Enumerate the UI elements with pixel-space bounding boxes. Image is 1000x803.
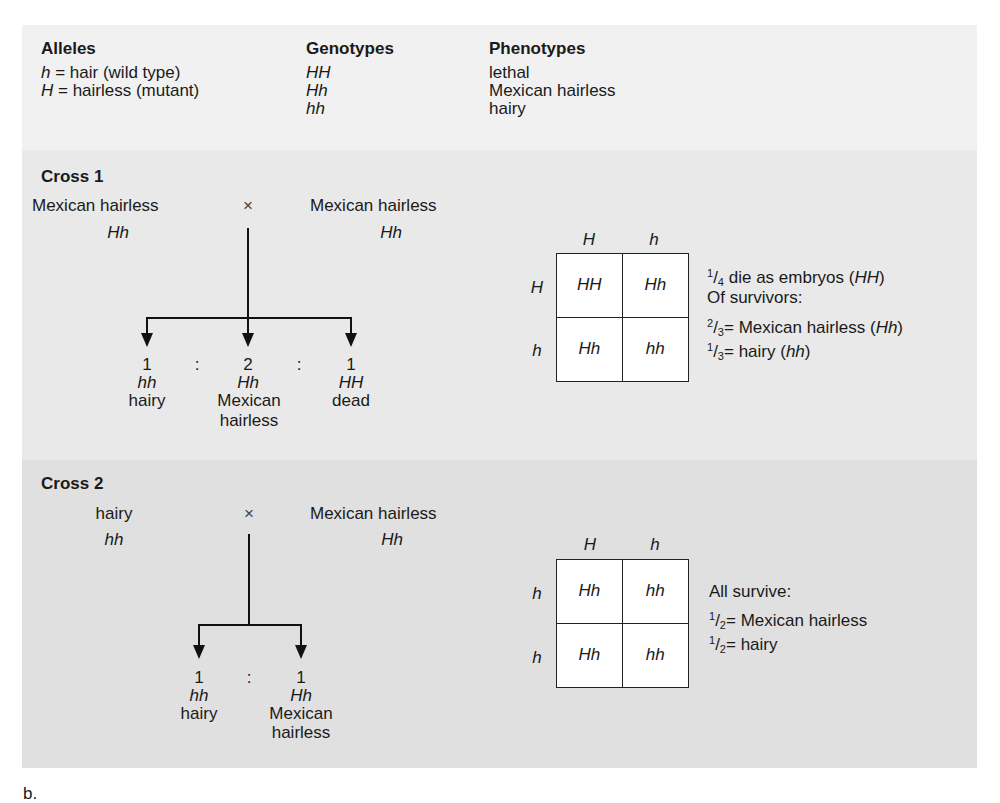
cross1-parent1-phenotype: Mexican hairless	[32, 196, 159, 216]
arrow-down-icon	[242, 333, 254, 347]
offspring-ratio: 1	[142, 355, 151, 375]
offspring-phenotype: dead	[332, 391, 370, 411]
arrow-down-icon	[295, 645, 307, 659]
allele-H: H = hairless (mutant)	[41, 81, 199, 101]
ratio-separator: :	[297, 355, 302, 375]
punnett-col-header: H	[583, 230, 595, 250]
punnett-cell: HH	[557, 254, 623, 318]
phenotypes-heading: Phenotypes	[489, 39, 585, 59]
ratio-separator: :	[195, 355, 200, 375]
genotype-item: Hh	[306, 81, 328, 101]
fraction-num: 2	[707, 317, 713, 329]
punnett-col-header: h	[649, 230, 658, 250]
allele-desc: = hairless (mutant)	[53, 81, 199, 100]
offspring-ratio: 1	[346, 355, 355, 375]
note-text: = Mexican hairless	[726, 611, 867, 630]
branch-stem	[248, 534, 250, 626]
punnett-cell: hh	[623, 624, 689, 688]
offspring-ratio: 1	[296, 668, 305, 688]
note-text: = Mexican hairless (	[724, 318, 876, 337]
punnett-cell: Hh	[557, 624, 623, 688]
punnett-square: Hh hh Hh hh	[556, 559, 689, 688]
cross1-note-survivors: Of survivors:	[707, 288, 802, 308]
offspring-phenotype-line2: hairless	[220, 411, 279, 431]
punnett-square: HH Hh Hh hh	[556, 253, 689, 382]
punnett-cell: Hh	[623, 254, 689, 318]
note-end: )	[897, 318, 903, 337]
branch-drop	[198, 624, 200, 646]
punnett-col-header: H	[584, 535, 596, 555]
fraction-den: 4	[718, 276, 724, 288]
cross2-title: Cross 2	[41, 474, 103, 494]
cross1-parent1-genotype: Hh	[107, 223, 129, 243]
offspring-genotype: hh	[138, 373, 157, 393]
note-genotype: hh	[786, 342, 805, 361]
punnett-row-header: h	[532, 341, 541, 361]
branch-bar	[198, 624, 302, 626]
arrow-down-icon	[345, 333, 357, 347]
cross-symbol: ×	[244, 504, 254, 524]
offspring-genotype: HH	[339, 373, 364, 393]
allele-symbol: H	[41, 81, 53, 100]
offspring-phenotype: hairy	[181, 704, 218, 724]
arrow-down-icon	[193, 645, 205, 659]
offspring-ratio: 1	[194, 668, 203, 688]
fraction-num: 1	[709, 610, 715, 622]
branch-drop	[300, 624, 302, 646]
punnett-cell: hh	[623, 318, 689, 382]
alleles-heading: Alleles	[41, 39, 96, 59]
note-text: die as embryos (	[729, 268, 855, 287]
cross2-parent1-genotype: hh	[105, 530, 124, 550]
genotype-item: HH	[306, 63, 331, 83]
phenotype-item: hairy	[489, 99, 526, 119]
cross2-note-survive: All survive:	[709, 582, 791, 602]
cross-symbol: ×	[243, 196, 253, 216]
punnett-row-header: h	[532, 648, 541, 668]
offspring-phenotype-line2: hairless	[272, 723, 331, 743]
note-genotype: HH	[854, 268, 879, 287]
cross1-parent2-phenotype: Mexican hairless	[310, 196, 437, 216]
note-end: )	[879, 268, 885, 287]
offspring-genotype: hh	[190, 686, 209, 706]
phenotype-item: lethal	[489, 63, 530, 83]
note-genotype: Hh	[876, 318, 898, 337]
note-end: )	[805, 342, 811, 361]
note-text: = hairy	[726, 635, 778, 654]
cross1-parent2-genotype: Hh	[380, 223, 402, 243]
punnett-cell: Hh	[557, 560, 623, 624]
figure-label: b.	[23, 784, 37, 803]
punnett-row-header: h	[532, 584, 541, 604]
cross1-title: Cross 1	[41, 167, 103, 187]
genotype-item: hh	[306, 99, 325, 119]
fraction-num: 1	[709, 634, 715, 646]
punnett-row-header: H	[531, 278, 543, 298]
note-text: = hairy (	[724, 342, 786, 361]
cross2-parent1-phenotype: hairy	[96, 504, 133, 524]
punnett-cell: hh	[623, 560, 689, 624]
genotypes-heading: Genotypes	[306, 39, 394, 59]
fraction-num: 1	[707, 267, 713, 279]
cross1-note-hairy: 1/3= hairy (hh)	[707, 337, 810, 366]
arrow-down-icon	[141, 333, 153, 347]
cross2-parent2-genotype: Hh	[381, 530, 403, 550]
offspring-genotype: Hh	[237, 373, 259, 393]
punnett-cell: Hh	[557, 318, 623, 382]
offspring-phenotype: Mexican	[217, 391, 280, 411]
branch-bar	[146, 317, 352, 319]
cross2-note-hairy: 1/2= hairy	[709, 630, 777, 659]
offspring-ratio: 2	[243, 355, 252, 375]
offspring-phenotype: hairy	[129, 391, 166, 411]
phenotype-item: Mexican hairless	[489, 81, 616, 101]
branch-stem	[247, 228, 249, 319]
fraction-num: 1	[707, 341, 713, 353]
ratio-separator: :	[247, 668, 252, 688]
offspring-phenotype: Mexican	[269, 704, 332, 724]
punnett-col-header: h	[650, 535, 659, 555]
cross1-panel	[22, 150, 977, 460]
cross2-parent2-phenotype: Mexican hairless	[310, 504, 437, 524]
allele-desc: = hair (wild type)	[50, 63, 180, 82]
offspring-genotype: Hh	[290, 686, 312, 706]
allele-h: h = hair (wild type)	[41, 63, 180, 83]
